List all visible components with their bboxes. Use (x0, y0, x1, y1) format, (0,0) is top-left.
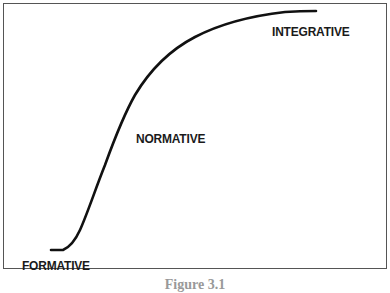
figure-caption: Figure 3.1 (0, 277, 390, 293)
integrative-label: INTEGRATIVE (272, 24, 349, 39)
formative-label: FORMATIVE (22, 258, 90, 273)
normative-label: NORMATIVE (136, 131, 205, 146)
